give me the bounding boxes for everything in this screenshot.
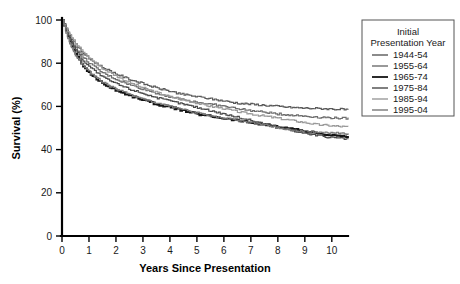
x-tick-label-6: 6 (221, 245, 227, 256)
legend-label-1975-84: 1975-84 (393, 82, 428, 93)
curve-1944-54 (62, 20, 348, 110)
y-axis-ticks: 020406080100 (35, 15, 62, 242)
x-tick-label-7: 7 (248, 245, 254, 256)
x-axis-ticks: 012345678910 (59, 236, 338, 256)
legend-label-1985-94: 1985-94 (393, 93, 428, 104)
x-tick-label-1: 1 (86, 245, 92, 256)
legend-label-1944-54: 1944-54 (393, 49, 428, 60)
x-tick-label-4: 4 (167, 245, 173, 256)
y-tick-label-0: 0 (46, 231, 52, 242)
x-tick-label-5: 5 (194, 245, 200, 256)
legend-title-line1: Initial (397, 26, 419, 37)
x-tick-label-9: 9 (302, 245, 308, 256)
y-tick-label-80: 80 (41, 58, 53, 69)
y-axis-title: Survival (%) (10, 96, 22, 159)
survival-chart-svg: 020406080100 012345678910 Survival (%) Y… (0, 0, 460, 284)
x-tick-label-8: 8 (275, 245, 281, 256)
x-tick-label-2: 2 (113, 245, 119, 256)
curve-1965-74 (62, 20, 348, 137)
legend-label-1955-64: 1955-64 (393, 60, 428, 71)
survival-chart-figure: 020406080100 012345678910 Survival (%) Y… (0, 0, 460, 284)
axes-layer (61, 18, 348, 236)
legend-label-1995-04: 1995-04 (393, 104, 428, 115)
x-tick-label-3: 3 (140, 245, 146, 256)
chart-legend: Initial Presentation Year 1944-541955-64… (362, 20, 454, 116)
legend-label-1965-74: 1965-74 (393, 71, 428, 82)
y-tick-label-20: 20 (41, 187, 53, 198)
x-tick-label-0: 0 (59, 245, 65, 256)
y-tick-label-60: 60 (41, 101, 53, 112)
legend-title-line2: Presentation Year (370, 37, 445, 48)
y-tick-label-100: 100 (35, 15, 52, 26)
x-tick-label-10: 10 (326, 245, 338, 256)
x-axis-title: Years Since Presentation (139, 262, 271, 274)
y-tick-label-40: 40 (41, 144, 53, 155)
curves-layer (62, 20, 348, 139)
